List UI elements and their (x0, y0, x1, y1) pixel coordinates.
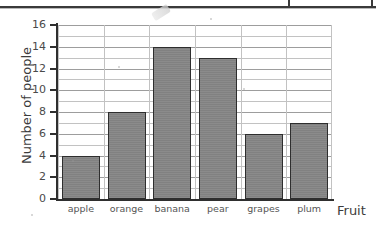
y-axis-tick-label: 10 (0, 84, 46, 95)
x-axis-category-label: banana (149, 203, 195, 214)
bar-apple (62, 156, 100, 200)
gridline-vertical (286, 25, 287, 199)
y-axis-tick (50, 198, 57, 200)
y-axis-tick (50, 111, 57, 113)
y-axis-tick (50, 46, 57, 48)
scan-speckle (31, 214, 33, 216)
x-axis-category-label: orange (104, 203, 150, 214)
y-axis-tick-label: 4 (0, 150, 46, 161)
scan-speckle (243, 88, 245, 90)
y-axis-tick (50, 133, 57, 135)
gridline-vertical (241, 25, 242, 199)
gridline-vertical (104, 25, 105, 199)
y-axis-tick (50, 89, 57, 91)
plot-area (58, 25, 332, 199)
y-axis-tick-label: 14 (0, 41, 46, 52)
gridline-vertical (331, 25, 332, 199)
y-axis-tick-label: 6 (0, 128, 46, 139)
y-axis-tick-label: 12 (0, 63, 46, 74)
x-axis-line (56, 199, 334, 201)
bar-grapes (245, 134, 283, 199)
y-axis-tick-label: 8 (0, 106, 46, 117)
x-axis-category-label: grapes (241, 203, 287, 214)
scan-speckle (118, 66, 120, 68)
bar-chart: Number of people Fruit 0246810121416appl… (0, 0, 376, 226)
x-axis-category-label: apple (58, 203, 104, 214)
bar-banana (153, 47, 191, 199)
gridline-vertical (149, 25, 150, 199)
y-axis-tick-label: 2 (0, 171, 46, 182)
y-axis-tick (50, 68, 57, 70)
x-axis-title: Fruit (337, 203, 366, 218)
scan-speckle (72, 160, 74, 162)
y-axis-tick (50, 176, 57, 178)
x-axis-category-label: plum (286, 203, 332, 214)
scan-speckle (210, 18, 212, 20)
y-axis-tick-label: 16 (0, 19, 46, 30)
bar-plum (290, 123, 328, 199)
x-axis-category-label: pear (195, 203, 241, 214)
y-axis-tick (50, 24, 57, 26)
y-axis-tick-label: 0 (0, 193, 46, 204)
bar-pear (199, 58, 237, 199)
y-axis-tick (50, 155, 57, 157)
bar-orange (108, 112, 146, 199)
gridline-vertical (195, 25, 196, 199)
gridline-vertical (58, 25, 59, 199)
